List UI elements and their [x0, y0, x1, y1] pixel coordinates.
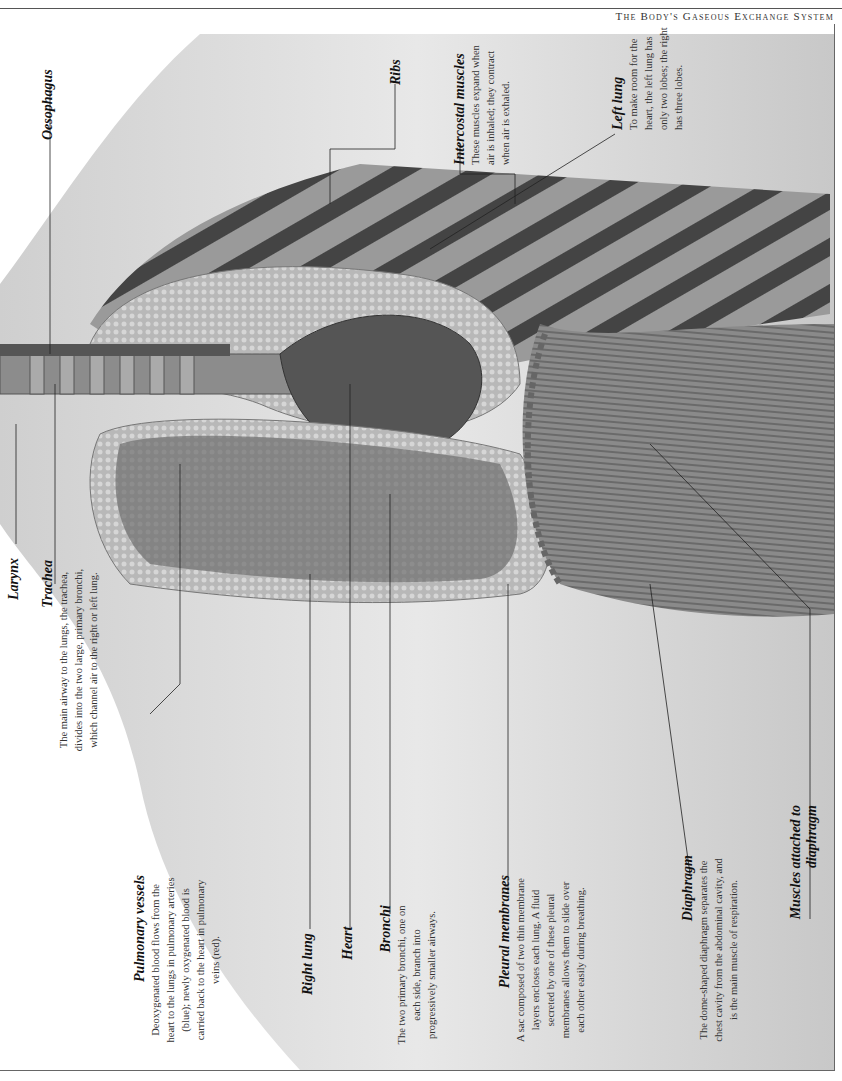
diaphragm-text: The dome-shaped diaphragm separates the … — [696, 855, 741, 1045]
label-intercostal-muscles: Intercostal muscles These muscles expand… — [452, 45, 513, 165]
label-pulmonary-vessels: Pulmonary vessels Deoxygenated blood flo… — [132, 875, 223, 1045]
left-lung-title: Left lung — [610, 20, 626, 130]
label-muscles-attached-to-diaphragm: Muscles attached to diaphragm — [788, 805, 820, 935]
label-bronchi: Bronchi The two primary bronchi, one on … — [378, 905, 439, 1045]
left-lung-text: To make room for the heart, the left lun… — [626, 20, 686, 130]
trachea-text: The main airway to the lungs, the trache… — [56, 560, 101, 760]
header-rule — [0, 8, 842, 9]
pleural-title: Pleural membranes — [497, 875, 513, 1045]
bronchi-text: The two primary bronchi, one on each sid… — [394, 905, 439, 1045]
label-pleural-membranes: Pleural membranes A sac composed of two … — [497, 875, 588, 1045]
label-left-lung: Left lung To make room for the heart, th… — [610, 20, 686, 130]
intercostal-title: Intercostal muscles — [452, 45, 468, 165]
label-larynx: Larynx — [6, 558, 22, 600]
diaphragm-title: Diaphragm — [680, 855, 696, 1045]
label-ribs: Ribs — [388, 59, 404, 85]
label-oesophagus: Oesophagus — [40, 69, 56, 140]
label-right-lung: Right lung — [300, 933, 316, 995]
trachea-title: Trachea — [40, 560, 56, 760]
label-trachea: Trachea The main airway to the lungs, th… — [40, 560, 101, 760]
label-diaphragm: Diaphragm The dome-shaped diaphragm sepa… — [680, 855, 741, 1045]
pulmonary-text: Deoxygenated blood flows from the heart … — [148, 875, 223, 1045]
pulmonary-title: Pulmonary vessels — [132, 875, 148, 1045]
pleural-text: A sac composed of two thin membrane laye… — [513, 875, 588, 1045]
muscles-diaphragm-title: Muscles attached to diaphragm — [788, 805, 820, 935]
intercostal-text: These muscles expand when air is inhaled… — [468, 45, 513, 165]
label-heart: Heart — [340, 927, 356, 960]
bronchi-title: Bronchi — [378, 905, 394, 1045]
